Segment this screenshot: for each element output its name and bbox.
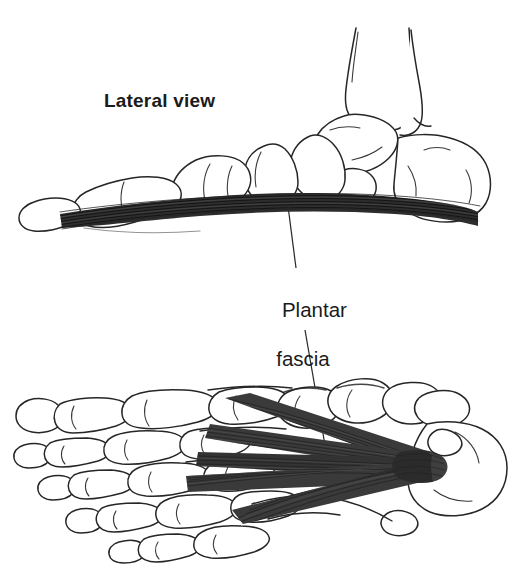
- plantar-fascia-label: Plantar fascia: [255, 274, 351, 419]
- leader-line-to-lateral-fascia: [288, 206, 296, 268]
- plantar-fascia-label-line2: fascia: [255, 347, 351, 371]
- lateral-view-panel: [19, 28, 492, 236]
- plantar-fascia-figure: .bone { fill: #ffffff; stroke: #262626; …: [0, 0, 523, 573]
- plantar-fascia-label-line1: Plantar: [282, 298, 347, 321]
- toe-5-phalanges: [109, 526, 270, 563]
- lateral-view-label: Lateral view: [104, 90, 215, 112]
